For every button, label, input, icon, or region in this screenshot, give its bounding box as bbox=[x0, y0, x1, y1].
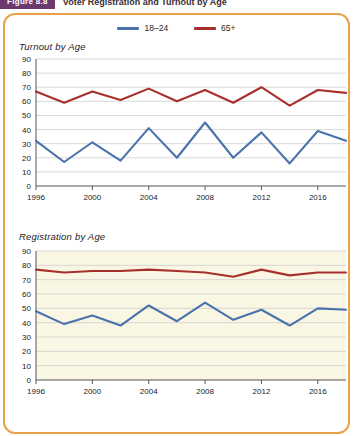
figure-title: Voter Registration and Turnout by Age bbox=[63, 0, 227, 7]
panel-registration-by-age: Registration by Age 01020304050607080901… bbox=[5, 231, 350, 434]
line-swatch-blue-icon bbox=[117, 27, 139, 30]
svg-text:1996: 1996 bbox=[27, 387, 45, 396]
legend-label-65-plus: 65+ bbox=[221, 23, 235, 33]
svg-text:20: 20 bbox=[22, 347, 31, 356]
svg-text:50: 50 bbox=[22, 304, 31, 313]
svg-text:2012: 2012 bbox=[253, 193, 271, 202]
svg-text:80: 80 bbox=[22, 261, 31, 270]
svg-text:2000: 2000 bbox=[83, 387, 101, 396]
svg-text:10: 10 bbox=[22, 362, 31, 371]
plot-turnout: 0102030405060708090199620002004200820122… bbox=[5, 55, 350, 205]
chart-card: 18–24 65+ Turnout by Age 010203040506070… bbox=[3, 13, 350, 434]
legend-item-18-24: 18–24 bbox=[117, 23, 168, 33]
svg-text:60: 60 bbox=[22, 290, 31, 299]
svg-text:0: 0 bbox=[27, 182, 32, 191]
legend-item-65-plus: 65+ bbox=[194, 23, 235, 33]
svg-text:90: 90 bbox=[22, 247, 31, 256]
svg-text:40: 40 bbox=[22, 319, 31, 328]
svg-text:2000: 2000 bbox=[83, 193, 101, 202]
svg-text:90: 90 bbox=[22, 55, 31, 64]
svg-text:2016: 2016 bbox=[309, 193, 327, 202]
panel-title-turnout: Turnout by Age bbox=[19, 41, 86, 52]
svg-text:2008: 2008 bbox=[196, 387, 214, 396]
chart-legend: 18–24 65+ bbox=[5, 23, 348, 33]
svg-text:40: 40 bbox=[22, 126, 31, 135]
figure-header: Figure 8.8 Voter Registration and Turnou… bbox=[0, 0, 353, 9]
svg-text:80: 80 bbox=[22, 69, 31, 78]
svg-text:2008: 2008 bbox=[196, 193, 214, 202]
line-chart-turnout: 0102030405060708090199620002004200820122… bbox=[5, 55, 350, 205]
figure-card-page: Figure 8.8 Voter Registration and Turnou… bbox=[0, 0, 353, 436]
panel-turnout-by-age: Turnout by Age 0102030405060708090199620… bbox=[5, 41, 350, 231]
svg-text:70: 70 bbox=[22, 83, 31, 92]
svg-text:1996: 1996 bbox=[27, 193, 45, 202]
svg-text:60: 60 bbox=[22, 97, 31, 106]
svg-text:0: 0 bbox=[27, 376, 32, 385]
panel-title-registration: Registration by Age bbox=[19, 231, 105, 242]
figure-number-badge: Figure 8.8 bbox=[0, 0, 55, 9]
svg-text:30: 30 bbox=[22, 333, 31, 342]
svg-text:30: 30 bbox=[22, 140, 31, 149]
svg-text:10: 10 bbox=[22, 168, 31, 177]
svg-text:2012: 2012 bbox=[253, 387, 271, 396]
line-chart-registration: 0102030405060708090199620002004200820122… bbox=[5, 247, 350, 399]
line-swatch-red-icon bbox=[194, 27, 216, 30]
svg-text:2004: 2004 bbox=[140, 387, 158, 396]
legend-label-18-24: 18–24 bbox=[144, 23, 168, 33]
plot-registration: 0102030405060708090199620002004200820122… bbox=[5, 247, 350, 399]
svg-text:20: 20 bbox=[22, 154, 31, 163]
svg-text:50: 50 bbox=[22, 111, 31, 120]
svg-text:70: 70 bbox=[22, 276, 31, 285]
svg-text:2016: 2016 bbox=[309, 387, 327, 396]
svg-text:2004: 2004 bbox=[140, 193, 158, 202]
